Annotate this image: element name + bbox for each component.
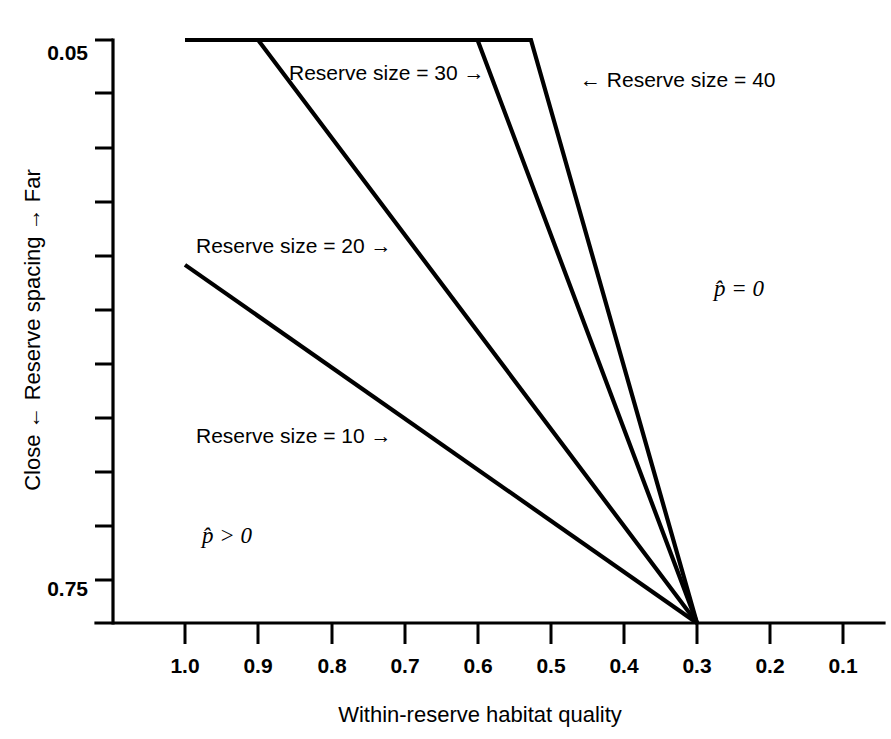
y-tick-group (95, 40, 113, 580)
series-label-size-40: ← Reserve size = 40 (580, 68, 776, 91)
x-tick-label-8: 0.2 (755, 654, 784, 677)
x-tick-label-2: 0.8 (317, 654, 347, 677)
x-tick-label-5: 0.5 (536, 654, 566, 677)
series-line-reserve-size-40 (185, 40, 697, 623)
y-axis-title: Close ← Reserve spacing → Far (20, 169, 45, 491)
x-tick-group (185, 623, 843, 644)
series-label-size-30: Reserve size = 30 → (289, 61, 485, 84)
x-tick-label-3: 0.7 (390, 654, 419, 677)
series-line-reserve-size-20 (185, 40, 697, 623)
x-tick-label-7: 0.3 (682, 654, 711, 677)
x-tick-label-6: 0.4 (609, 654, 639, 677)
annotation-p-hat-greater-zero: p̂ > 0 (200, 523, 253, 548)
x-tick-label-0: 1.0 (170, 654, 199, 677)
y-tick-label-bottom: 0.75 (47, 577, 88, 600)
x-tick-label-1: 0.9 (243, 654, 272, 677)
series-label-size-10: Reserve size = 10 → (196, 424, 392, 447)
figure-container: 0.05 0.75 1.0 0.9 0.8 0.7 0.6 0.5 0.4 0.… (0, 0, 891, 739)
series-group (185, 40, 697, 623)
series-label-size-20: Reserve size = 20 → (196, 234, 392, 257)
x-tick-label-9: 0.1 (828, 654, 858, 677)
x-axis-title: Within-reserve habitat quality (338, 702, 622, 727)
line-chart: 0.05 0.75 1.0 0.9 0.8 0.7 0.6 0.5 0.4 0.… (0, 0, 891, 739)
x-tick-label-4: 0.6 (463, 654, 492, 677)
series-line-reserve-size-30 (185, 40, 697, 623)
y-tick-label-top: 0.05 (47, 41, 88, 64)
annotation-p-hat-equals-zero: p̂ = 0 (712, 276, 765, 301)
